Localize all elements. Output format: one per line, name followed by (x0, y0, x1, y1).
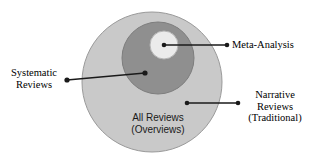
label-meta-analysis: Meta-Analysis (232, 39, 294, 51)
label-narrative-reviews: Narrative Reviews (Traditional) (240, 89, 310, 124)
connector-dot-outer (225, 43, 230, 48)
connector-dot-inner (142, 70, 147, 75)
label-narrative-reviews-line1: Narrative (240, 89, 310, 101)
label-systematic-reviews-line2: Reviews (4, 79, 64, 91)
diagram-canvas: Meta-Analysis Systematic Reviews Narrati… (0, 0, 312, 159)
label-meta-analysis-line1: Meta-Analysis (232, 39, 294, 51)
label-all-reviews: All Reviews (Overviews) (112, 112, 204, 136)
label-narrative-reviews-line2: Reviews (240, 101, 310, 113)
label-all-reviews-line1: All Reviews (112, 112, 204, 124)
connector-dot-outer (64, 77, 69, 82)
label-systematic-reviews: Systematic Reviews (4, 67, 64, 90)
label-narrative-reviews-line3: (Traditional) (240, 112, 310, 124)
connector-dot-inner (162, 43, 167, 48)
label-systematic-reviews-line1: Systematic (4, 67, 64, 79)
connector-dot-inner (185, 101, 190, 106)
label-all-reviews-line2: (Overviews) (112, 124, 204, 136)
